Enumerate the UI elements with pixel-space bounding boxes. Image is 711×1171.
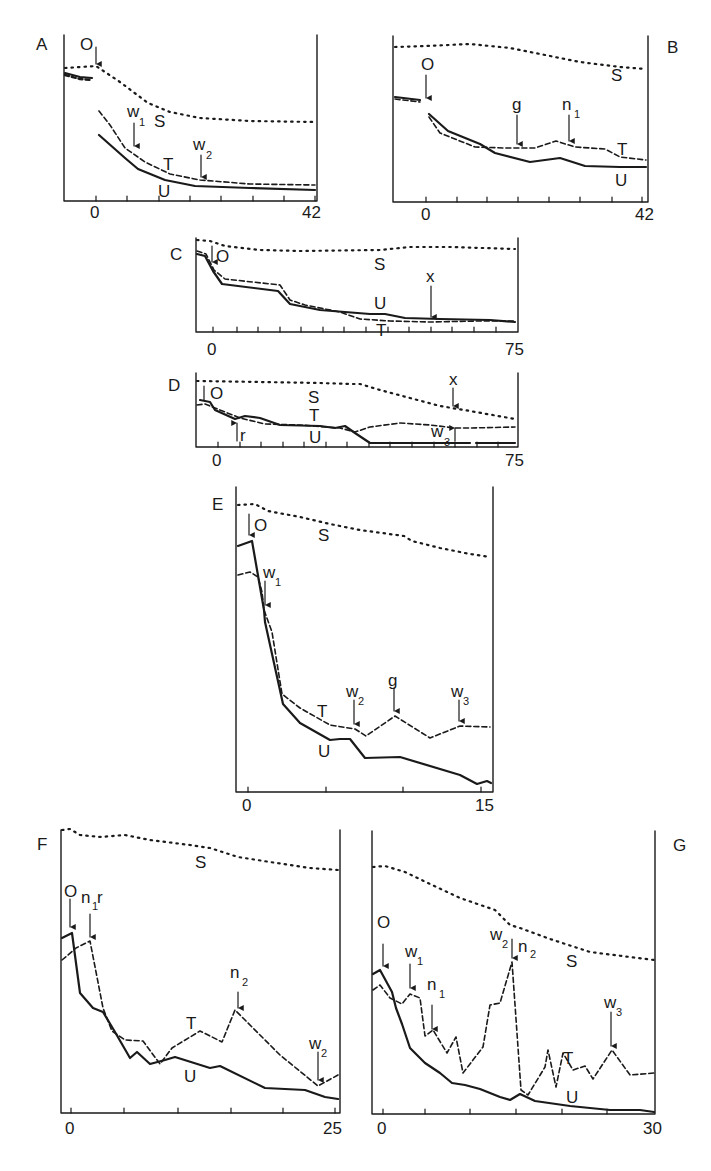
panel-e-label-w1-sub: 1	[275, 576, 281, 588]
panel-b-letter: B	[667, 38, 678, 57]
panel-a-series-u	[65, 73, 315, 190]
panel-b-label-s: S	[611, 66, 622, 85]
panel-d-series-u	[200, 400, 515, 443]
panel-g	[372, 831, 655, 1114]
panel-c-label-o: O	[216, 247, 229, 266]
panel-a-letter: A	[36, 35, 48, 54]
panel-g-label-n1-sub: 1	[439, 988, 445, 1000]
panel-a-label-u: U	[158, 182, 170, 201]
panel-b-labels: B O g n 1 S T U 0 42	[421, 38, 678, 224]
panel-a-frame	[64, 35, 317, 201]
panel-c-label-u: U	[374, 294, 386, 313]
panel-a-series-s	[65, 66, 315, 122]
panel-d-label-x: x	[449, 370, 458, 389]
panel-g-xtick-30: 30	[643, 1119, 662, 1138]
panel-g-label-n2-sub: 2	[530, 948, 536, 960]
panel-f-xtick-0: 0	[65, 1119, 74, 1138]
panel-b-label-t: T	[617, 140, 627, 159]
panel-a-label-w2: w	[192, 135, 206, 154]
panel-e-label-w3: w	[450, 682, 464, 701]
panel-f-label-s: S	[195, 853, 206, 872]
panel-b-label-u: U	[615, 171, 627, 190]
panel-a	[64, 35, 317, 201]
panel-g-label-o: O	[377, 913, 390, 932]
panel-e-label-s: S	[318, 526, 329, 545]
panel-g-label-w3: w	[603, 993, 617, 1012]
panel-g-series-u	[373, 970, 654, 1112]
panel-e-letter: E	[212, 495, 223, 514]
panel-f-series-u	[62, 933, 338, 1099]
panel-b-xtick-42: 42	[635, 205, 654, 224]
panel-e-ticks	[248, 787, 481, 792]
panel-f-ticks	[71, 1108, 335, 1113]
panel-f-label-w2: w	[308, 1034, 322, 1053]
panel-d-xtick-0: 0	[212, 451, 221, 470]
panel-a-label-w: w	[126, 102, 140, 121]
panel-a-label-w2-sub: 2	[206, 149, 212, 161]
figure-canvas: A O w 1 S T w 2 U 0 42 B O g n 1 S T U 0…	[0, 0, 711, 1171]
panel-g-ticks	[383, 1109, 607, 1114]
panel-g-label-n2: n	[518, 937, 527, 956]
panel-a-label-s: S	[154, 112, 165, 131]
panel-c-label-t: T	[376, 321, 386, 340]
panel-e-label-w2: w	[345, 682, 359, 701]
panel-e-label-w2-sub: 2	[358, 695, 364, 707]
panel-d-series-s	[197, 381, 515, 419]
panel-e	[236, 487, 493, 792]
panel-g-label-w1: w	[404, 942, 418, 961]
panel-e-frame	[236, 487, 493, 792]
panel-e-xtick-0: 0	[242, 796, 251, 815]
panel-a-xtick-42: 42	[302, 203, 321, 222]
panel-c	[196, 238, 518, 332]
panel-g-letter: G	[673, 836, 686, 855]
panel-f-labels: F S O n 1 r n 2 T U w 2 0 25	[37, 835, 342, 1138]
panel-a-series-t	[99, 111, 315, 185]
panel-d-labels: D O S T U r x w 3 0 75	[168, 370, 524, 470]
panel-c-label-x: x	[426, 267, 435, 286]
panel-c-series-s	[197, 240, 515, 251]
panel-g-label-w1-sub: 1	[417, 955, 423, 967]
panel-b-label-n-sub: 1	[574, 108, 580, 120]
panel-b-xtick-0: 0	[421, 205, 430, 224]
panel-c-label-s: S	[374, 255, 385, 274]
panel-f-label-n: n	[81, 888, 90, 907]
panel-b-label-n: n	[562, 95, 571, 114]
panel-e-label-u: U	[318, 742, 330, 761]
panel-e-labels: E O S w 1 w 2 g w 3 T U 0 15	[212, 495, 494, 815]
panel-d-label-w: w	[430, 422, 444, 441]
panel-b-ticks	[426, 197, 642, 202]
panel-c-letter: C	[170, 245, 182, 264]
panel-e-label-g: g	[388, 671, 397, 690]
panel-a-label-w-sub: 1	[139, 116, 145, 128]
panel-g-xtick-0: 0	[377, 1119, 386, 1138]
panel-b-label-o: O	[421, 55, 434, 74]
panel-e-label-o: O	[254, 516, 267, 535]
panel-f-label-n2-sub: 2	[242, 976, 248, 988]
panel-f-label-o: O	[64, 882, 77, 901]
panel-g-label-s: S	[566, 952, 577, 971]
panel-d-label-w-sub: 3	[444, 436, 450, 448]
panel-a-ticks	[96, 196, 315, 201]
panel-b-label-g: g	[512, 95, 521, 114]
panel-e-label-t: T	[317, 702, 327, 721]
panel-a-xtick-0: 0	[90, 203, 99, 222]
panel-g-label-w2-sub: 2	[502, 938, 508, 950]
panel-a-labels: A O w 1 S T w 2 U 0 42	[36, 35, 321, 222]
panel-e-xtick-15: 15	[475, 796, 494, 815]
panel-a-label-t: T	[163, 155, 173, 174]
panel-g-label-w2: w	[489, 925, 503, 944]
panel-e-label-w1: w	[262, 563, 276, 582]
panel-c-xtick-75: 75	[505, 340, 524, 359]
panel-c-series-u	[197, 254, 515, 322]
panel-f-label-t: T	[186, 1014, 196, 1033]
panel-e-series-s	[238, 504, 490, 557]
panel-f-letter: F	[37, 835, 47, 854]
panel-c-ticks	[213, 327, 496, 332]
panel-e-label-w3-sub: 3	[463, 695, 469, 707]
panel-f-label-u: U	[184, 1067, 196, 1086]
panel-g-label-u: U	[566, 1088, 578, 1107]
panel-d-label-s: S	[308, 388, 319, 407]
panel-g-series-t	[373, 962, 654, 1095]
panel-f-xtick-25: 25	[323, 1119, 342, 1138]
panel-c-labels: C O S x U T 0 75	[170, 245, 524, 359]
